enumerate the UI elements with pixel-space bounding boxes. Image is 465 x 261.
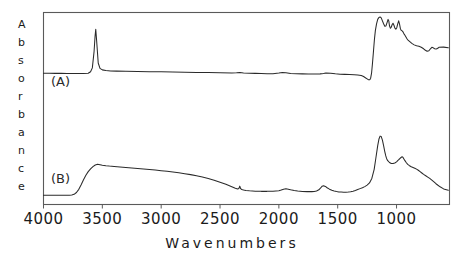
ftir-spectrum-figure: A b s o r b a n c e 40003500300025002000… xyxy=(0,0,465,261)
x-tick-label-3000: 3000 xyxy=(141,210,181,228)
x-axis-ticks xyxy=(44,205,397,209)
x-tick-label-2500: 2500 xyxy=(200,210,240,228)
x-tick-label-4000: 4000 xyxy=(23,210,63,228)
y-axis-letter-7: n xyxy=(18,144,25,157)
y-axis-letter-8: c xyxy=(18,162,24,175)
curve-label-a: (A) xyxy=(51,74,70,89)
spectrum-curve-b xyxy=(44,136,449,195)
y-axis-letter-4: r xyxy=(18,90,23,103)
curve-label-b: (B) xyxy=(51,171,70,186)
x-tick-label-1500: 1500 xyxy=(318,210,358,228)
y-axis-letter-5: b xyxy=(18,108,25,121)
x-axis-title: Wavenumbers xyxy=(165,235,298,251)
y-axis-letter-2: s xyxy=(18,54,24,67)
x-axis-tick-labels: 4000350030002500200015001000 xyxy=(23,210,416,228)
y-axis-label: A b s o r b a n c e xyxy=(18,18,26,193)
plot-frame xyxy=(44,13,450,205)
y-axis-letter-0: A xyxy=(18,18,26,31)
y-axis-letter-6: a xyxy=(18,126,25,139)
x-tick-label-2000: 2000 xyxy=(259,210,299,228)
spectrum-curve-a xyxy=(44,17,449,80)
x-tick-label-1000: 1000 xyxy=(376,210,416,228)
x-tick-label-3500: 3500 xyxy=(82,210,122,228)
y-axis-letter-1: b xyxy=(18,36,25,49)
y-axis-letter-9: e xyxy=(18,180,25,193)
y-axis-letter-3: o xyxy=(18,72,25,85)
